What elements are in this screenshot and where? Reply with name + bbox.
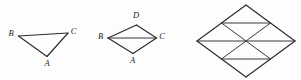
segment-ab <box>108 38 133 54</box>
vertex-label-b: B <box>98 31 103 41</box>
diagonal-lower-right <box>246 41 271 59</box>
vertex-label-d: D <box>132 10 140 20</box>
diagonal-upper-left <box>222 23 247 41</box>
vertex-label-a: A <box>43 58 50 68</box>
segment-bd <box>108 25 137 38</box>
figure-subdivided-rhombus <box>197 5 295 77</box>
figures-canvas: B C A B D C A <box>0 0 301 80</box>
diagonal-upper-right <box>246 23 271 41</box>
figure-triangle-abc: B C A <box>8 26 76 68</box>
segment-dc <box>137 25 157 38</box>
vertex-label-c: C <box>71 26 77 36</box>
vertex-label-c: C <box>159 31 165 41</box>
vertex-label-b: B <box>8 28 13 38</box>
segment-ab <box>19 36 48 57</box>
diagonal-lower-left <box>222 41 247 59</box>
geometry-figures-panel: B C A B D C A <box>0 0 301 80</box>
vertex-label-a: A <box>129 55 136 65</box>
segment-ca <box>47 33 68 57</box>
segment-ca <box>133 38 157 54</box>
segment-bc <box>19 33 69 36</box>
figure-quadrilateral-bdca: B D C A <box>98 10 165 65</box>
